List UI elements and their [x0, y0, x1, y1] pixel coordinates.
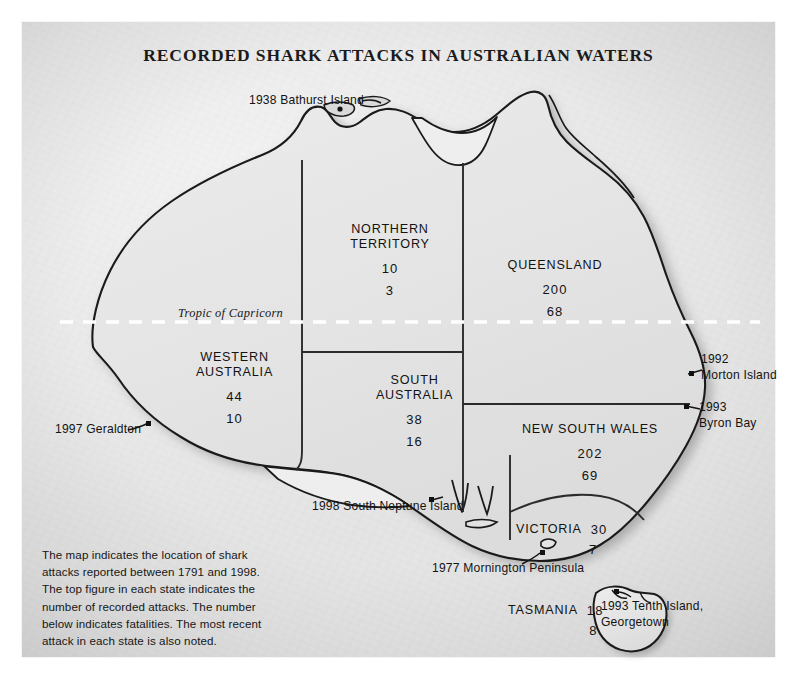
nsw-attacks: 202 — [510, 446, 670, 461]
wa-fatalities: 10 — [172, 411, 297, 426]
sa-name-line1: SOUTH — [352, 373, 477, 388]
annotation-bathurst-island: 1938 Bathurst Island — [249, 93, 364, 109]
vic-fatalities: 7 — [516, 542, 607, 557]
sa-fatalities: 16 — [352, 434, 477, 449]
tenth-line1: 1993 Tenth Island, — [601, 599, 703, 615]
annotation-south-neptune-island: 1998 South Neptune Island — [312, 499, 464, 515]
state-label-new-south-wales: NEW SOUTH WALES 202 69 — [510, 422, 670, 483]
marker-geraldton — [146, 421, 151, 426]
vic-attacks: 30 — [591, 522, 608, 537]
state-label-south-australia: SOUTH AUSTRALIA 38 16 — [352, 373, 477, 449]
marker-morton-island — [689, 371, 694, 376]
sa-attacks: 38 — [352, 412, 477, 427]
nsw-name-line1: NEW SOUTH WALES — [510, 422, 670, 437]
map-caption: The map indicates the location of shark … — [42, 546, 264, 649]
map-page: RECORDED SHARK ATTACKS IN AUSTRALIAN WAT… — [0, 0, 797, 679]
tas-fatalities: 8 — [508, 623, 604, 638]
qld-name-line1: QUEENSLAND — [490, 258, 620, 273]
state-label-victoria: VICTORIA 30 7 — [516, 522, 607, 557]
annotation-byron-bay: 1993 Byron Bay — [699, 400, 757, 431]
state-label-tasmania: TASMANIA 18 8 — [508, 603, 604, 638]
wa-name-line1: WESTERN — [172, 350, 297, 365]
annotation-morton-island: 1992 Morton Island — [701, 352, 777, 383]
qld-fatalities: 68 — [490, 304, 620, 319]
morton-place: Morton Island — [701, 368, 777, 384]
tas-name-line1: TASMANIA — [508, 603, 578, 618]
nt-name-line2: TERRITORY — [330, 237, 450, 252]
wa-name-line2: AUSTRALIA — [172, 365, 297, 380]
annotation-mornington-peninsula: 1977 Mornington Peninsula — [432, 561, 584, 577]
byron-place: Byron Bay — [699, 416, 757, 432]
nt-attacks: 10 — [330, 261, 450, 276]
marker-byron-bay — [684, 404, 689, 409]
nt-name-line1: NORTHERN — [330, 222, 450, 237]
nsw-fatalities: 69 — [510, 468, 670, 483]
byron-year: 1993 — [699, 400, 757, 416]
qld-attacks: 200 — [490, 282, 620, 297]
tropic-of-capricorn-label: Tropic of Capricorn — [178, 306, 283, 321]
nt-fatalities: 3 — [330, 283, 450, 298]
annotation-tenth-island: 1993 Tenth Island, Georgetown — [601, 599, 703, 630]
marker-tenth-island — [614, 589, 619, 594]
state-label-western-australia: WESTERN AUSTRALIA 44 10 — [172, 350, 297, 426]
wa-attacks: 44 — [172, 389, 297, 404]
state-label-northern-territory: NORTHERN TERRITORY 10 3 — [330, 222, 450, 298]
vic-name-line1: VICTORIA — [516, 522, 582, 537]
tenth-line2: Georgetown — [601, 615, 703, 631]
morton-year: 1992 — [701, 352, 777, 368]
sa-name-line2: AUSTRALIA — [352, 388, 477, 403]
state-label-queensland: QUEENSLAND 200 68 — [490, 258, 620, 319]
australia-mainland — [92, 92, 705, 561]
annotation-geraldton: 1997 Geraldton — [55, 422, 141, 438]
